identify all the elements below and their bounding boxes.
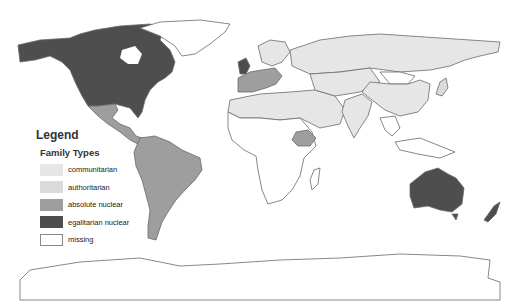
- region-madagascar[interactable]: [310, 168, 320, 190]
- legend-item-communitarian: communitarian: [40, 161, 129, 179]
- legend-item-egalitarian-nuclear: egalitarian nuclear: [40, 214, 129, 232]
- legend-label: egalitarian nuclear: [68, 218, 129, 227]
- legend-swatch: [40, 181, 63, 193]
- region-scandinavia[interactable]: [258, 40, 290, 66]
- legend-subtitle: Family Types: [40, 147, 129, 158]
- legend-label: missing: [68, 235, 93, 244]
- region-tasmania[interactable]: [452, 214, 458, 220]
- legend-items: communitarian authoritarian absolute nuc…: [40, 161, 129, 249]
- legend-swatch: [40, 234, 63, 246]
- legend-swatch: [40, 164, 63, 176]
- region-new-zealand[interactable]: [484, 202, 500, 222]
- region-india[interactable]: [342, 94, 372, 138]
- region-japan[interactable]: [436, 78, 448, 96]
- region-north-america[interactable]: [18, 24, 175, 118]
- region-mongolia[interactable]: [380, 72, 415, 84]
- legend-label: communitarian: [68, 165, 117, 174]
- region-antarctica[interactable]: [20, 254, 500, 300]
- legend-item-absolute-nuclear: absolute nuclear: [40, 196, 129, 214]
- region-southeast-asia[interactable]: [380, 116, 455, 158]
- legend-item-authoritarian: authoritarian: [40, 179, 129, 197]
- legend-label: authoritarian: [68, 183, 110, 192]
- legend: Legend Family Types communitarian author…: [36, 128, 129, 249]
- legend-swatch: [40, 199, 63, 211]
- region-china[interactable]: [362, 80, 430, 116]
- region-russia[interactable]: [290, 34, 500, 74]
- legend-item-missing: missing: [40, 231, 129, 249]
- region-uk[interactable]: [238, 58, 250, 74]
- region-south-america[interactable]: [134, 136, 202, 240]
- legend-label: absolute nuclear: [68, 200, 123, 209]
- legend-swatch: [40, 216, 63, 228]
- region-australia[interactable]: [410, 168, 464, 212]
- region-sub-saharan-africa[interactable]: [228, 112, 316, 204]
- legend-title: Legend: [36, 128, 129, 142]
